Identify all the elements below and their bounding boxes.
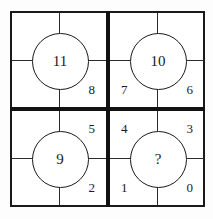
cell-number-bottom-right-top-right: 3	[187, 122, 194, 135]
cell-number-top-left-bottom-right: 8	[89, 83, 96, 96]
quadrant-top-right: 10 7 6	[110, 13, 204, 107]
cell-number-bottom-right-top-left: 4	[121, 122, 128, 135]
circle-node-top-left: 11	[32, 33, 89, 90]
cell-number-top-right-bottom-right: 6	[187, 83, 194, 96]
cell-number-bottom-left-bottom-right: 2	[89, 181, 96, 194]
circle-node-bottom-left: 9	[32, 131, 89, 188]
quadrant-top-left: 11 8	[12, 13, 106, 107]
quadrant-bottom-right: ? 4 3 1 0	[110, 111, 204, 205]
puzzle-diagram: 11 8 10 7 6 9 5 2 ? 4 3 1 0	[0, 0, 213, 219]
cell-number-top-right-bottom-left: 7	[121, 83, 128, 96]
cell-number-bottom-left-top-right: 5	[89, 122, 96, 135]
quadrant-bottom-left: 9 5 2	[12, 111, 106, 205]
circle-node-top-right: 10	[130, 33, 187, 90]
circle-node-bottom-right-unknown: ?	[130, 131, 187, 188]
cell-number-bottom-right-bottom-left: 1	[121, 181, 128, 194]
cell-number-bottom-right-bottom-right: 0	[187, 181, 194, 194]
